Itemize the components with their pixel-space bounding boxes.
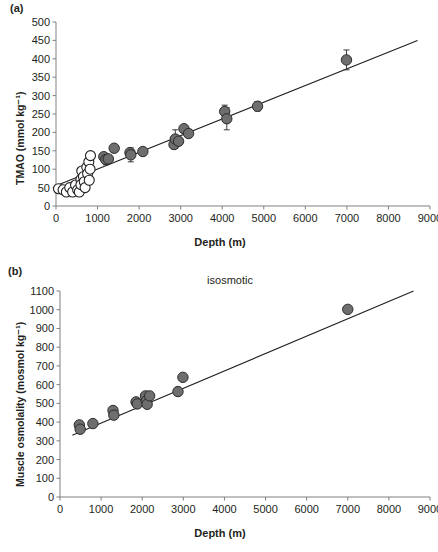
panel-b-plot-area: 0100200300400500600700800900100011000100… xyxy=(0,262,438,552)
y-tick-label: 300 xyxy=(36,435,54,447)
x-tick-label: 7000 xyxy=(335,212,359,224)
panel-a: (a) TMAO (mmol kg⁻¹) Depth (m) 050100150… xyxy=(0,0,438,265)
data-point-marker xyxy=(222,114,232,124)
x-tick-label: 6000 xyxy=(294,503,318,515)
x-tick-label: 7000 xyxy=(336,503,360,515)
data-point-marker xyxy=(109,143,119,153)
x-tick-label: 1000 xyxy=(85,212,109,224)
x-tick-label: 1000 xyxy=(89,503,113,515)
data-point-marker xyxy=(183,128,193,138)
data-point-marker xyxy=(341,55,351,65)
data-point-marker xyxy=(173,136,183,146)
y-tick-label: 150 xyxy=(32,145,50,157)
regression-line xyxy=(72,291,413,435)
x-tick-label: 8000 xyxy=(376,212,400,224)
data-point-marker xyxy=(178,372,188,382)
x-tick-label: 5000 xyxy=(252,212,276,224)
data-point-marker xyxy=(84,175,94,185)
y-tick-label: 900 xyxy=(36,322,54,334)
y-tick-label: 600 xyxy=(36,379,54,391)
x-tick-label: 6000 xyxy=(293,212,317,224)
x-tick-label: 8000 xyxy=(377,503,401,515)
y-tick-label: 700 xyxy=(36,360,54,372)
y-tick-label: 0 xyxy=(44,200,50,212)
x-tick-label: 2000 xyxy=(130,503,154,515)
data-point-marker xyxy=(109,410,119,420)
data-point-marker xyxy=(88,418,98,428)
y-tick-label: 500 xyxy=(32,16,50,28)
x-tick-label: 3000 xyxy=(168,212,192,224)
y-tick-label: 1000 xyxy=(30,304,54,316)
x-tick-label: 9000 xyxy=(418,503,438,515)
x-tick-label: 3000 xyxy=(171,503,195,515)
x-tick-label: 0 xyxy=(57,503,63,515)
y-tick-label: 300 xyxy=(32,90,50,102)
y-tick-label: 0 xyxy=(48,491,54,503)
y-tick-label: 200 xyxy=(32,126,50,138)
y-tick-label: 400 xyxy=(36,416,54,428)
x-tick-label: 9000 xyxy=(418,212,438,224)
x-tick-label: 4000 xyxy=(212,503,236,515)
data-point-marker xyxy=(343,304,353,314)
data-point-marker xyxy=(75,424,85,434)
y-tick-label: 100 xyxy=(36,472,54,484)
y-tick-label: 500 xyxy=(36,397,54,409)
panel-b: (b) isosmotic Muscle osmolality (mosmol … xyxy=(0,262,438,552)
y-tick-label: 100 xyxy=(32,163,50,175)
y-tick-label: 800 xyxy=(36,341,54,353)
y-tick-label: 50 xyxy=(38,182,50,194)
x-tick-label: 4000 xyxy=(210,212,234,224)
data-point-marker xyxy=(85,151,95,161)
y-tick-label: 350 xyxy=(32,71,50,83)
data-point-marker xyxy=(144,391,154,401)
data-point-marker xyxy=(138,146,148,156)
data-point-marker xyxy=(173,386,183,396)
data-point-marker xyxy=(103,154,113,164)
y-tick-label: 450 xyxy=(32,34,50,46)
y-tick-label: 400 xyxy=(32,53,50,65)
data-point-marker xyxy=(85,164,95,174)
data-point-marker xyxy=(126,150,136,160)
x-tick-label: 0 xyxy=(53,212,59,224)
panel-a-plot-area: 0501001502002503003504004505000100020003… xyxy=(0,0,438,265)
y-tick-label: 1100 xyxy=(30,285,54,297)
y-tick-label: 200 xyxy=(36,454,54,466)
y-tick-label: 250 xyxy=(32,108,50,120)
figure-container: (a) TMAO (mmol kg⁻¹) Depth (m) 050100150… xyxy=(0,0,438,552)
x-tick-label: 5000 xyxy=(253,503,277,515)
data-point-marker xyxy=(252,101,262,111)
x-tick-label: 2000 xyxy=(127,212,151,224)
